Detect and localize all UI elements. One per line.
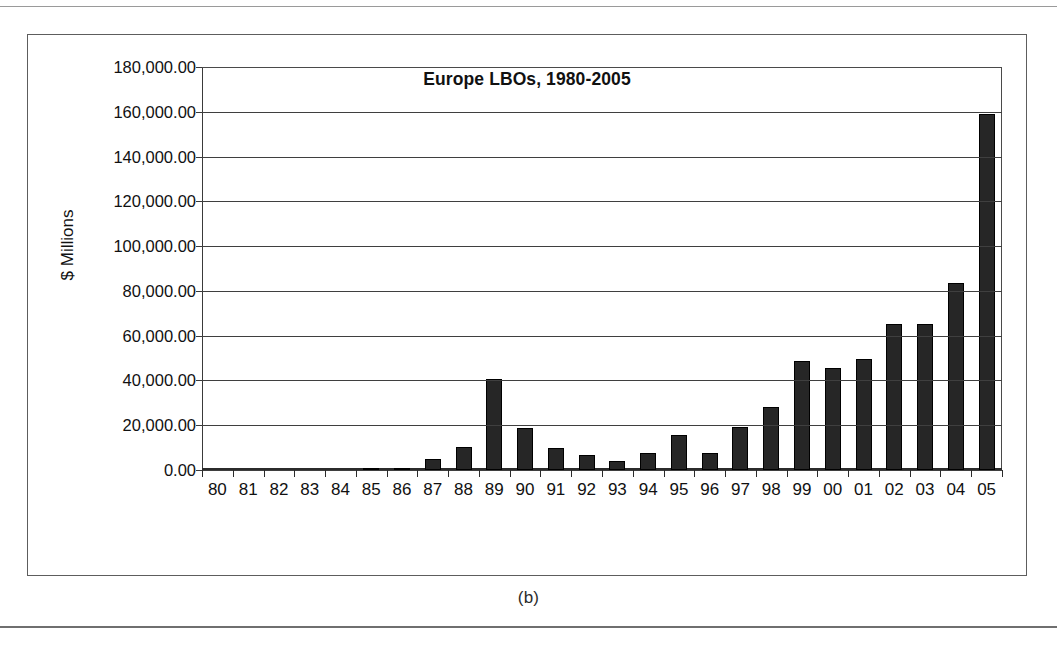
bar [917, 324, 933, 470]
bar [548, 448, 564, 470]
x-tick-mark [448, 470, 449, 477]
x-tick-mark [294, 470, 295, 477]
x-tick-mark [325, 470, 326, 477]
bar [671, 435, 687, 470]
gridline [202, 291, 1002, 292]
y-tick-label: 20,000.00 [0, 416, 196, 435]
x-tick-mark [356, 470, 357, 477]
y-tick-label: 40,000.00 [0, 371, 196, 390]
y-tick-label: 80,000.00 [0, 281, 196, 300]
bar [886, 324, 902, 470]
x-tick-mark [787, 470, 788, 477]
y-tick-label: 120,000.00 [0, 192, 196, 211]
figure-rule-top [0, 6, 1057, 7]
x-tick-mark [479, 470, 480, 477]
gridline [202, 380, 1002, 381]
bar [640, 453, 656, 470]
y-tick-mark [196, 157, 202, 158]
y-tick-mark [196, 425, 202, 426]
y-tick-mark [196, 201, 202, 202]
x-tick-mark [725, 470, 726, 477]
y-tick-label: 140,000.00 [0, 147, 196, 166]
x-tick-mark [694, 470, 695, 477]
y-tick-mark [196, 112, 202, 113]
y-tick-mark [196, 246, 202, 247]
bar [856, 359, 872, 470]
bar [517, 428, 533, 470]
x-tick-mark [756, 470, 757, 477]
bar [425, 459, 441, 470]
chart-frame: Europe LBOs, 1980-2005 $ Millions 0.0020… [27, 34, 1027, 576]
y-tick-label: 180,000.00 [0, 58, 196, 77]
y-tick-label: 60,000.00 [0, 326, 196, 345]
bar [456, 447, 472, 470]
bar [609, 461, 625, 470]
x-tick-mark [817, 470, 818, 477]
x-tick-mark [879, 470, 880, 477]
x-tick-mark [540, 470, 541, 477]
x-tick-mark [940, 470, 941, 477]
bar [794, 361, 810, 470]
bar [702, 453, 718, 470]
bar [979, 114, 995, 470]
x-tick-mark [417, 470, 418, 477]
figure-rule-bottom [0, 626, 1057, 628]
bar [948, 283, 964, 470]
gridline [202, 157, 1002, 158]
x-tick-mark [1002, 470, 1003, 477]
y-tick-label: 160,000.00 [0, 102, 196, 121]
gridline [202, 336, 1002, 337]
y-tick-mark [196, 67, 202, 68]
figure-page: Europe LBOs, 1980-2005 $ Millions 0.0020… [0, 0, 1057, 648]
x-tick-mark [233, 470, 234, 477]
gridline [202, 112, 1002, 113]
y-tick-mark [196, 380, 202, 381]
gridline [202, 201, 1002, 202]
plot-area: 0.0020,000.0040,000.0060,000.0080,000.00… [202, 67, 1002, 470]
x-tick-mark [848, 470, 849, 477]
x-tick-mark [971, 470, 972, 477]
bar [732, 427, 748, 470]
bar [579, 455, 595, 470]
x-tick-mark [202, 470, 203, 477]
y-tick-label: 100,000.00 [0, 237, 196, 256]
bar [825, 368, 841, 470]
y-tick-mark [196, 336, 202, 337]
y-tick-label: 0.00 [0, 461, 196, 480]
x-tick-mark [571, 470, 572, 477]
figure-caption: (b) [0, 588, 1057, 608]
x-tick-mark [602, 470, 603, 477]
gridline [202, 246, 1002, 247]
x-tick-mark [664, 470, 665, 477]
bar [763, 407, 779, 470]
gridline [202, 425, 1002, 426]
y-tick-mark [196, 291, 202, 292]
x-tick-mark [510, 470, 511, 477]
gridline [202, 67, 1002, 68]
x-tick-mark [910, 470, 911, 477]
bar-series [202, 67, 1002, 470]
x-tick-mark [387, 470, 388, 477]
x-tick-label: 05 [967, 480, 1007, 500]
x-tick-mark [633, 470, 634, 477]
x-tick-mark [264, 470, 265, 477]
